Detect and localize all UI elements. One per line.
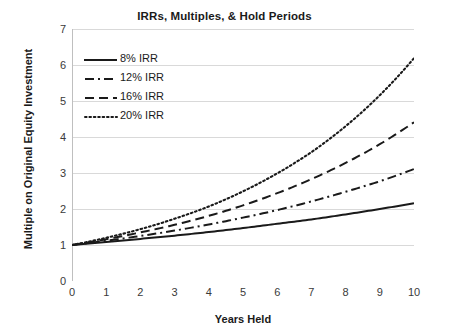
legend-item: 16% IRR — [84, 86, 214, 105]
x-axis-tick-label: 7 — [296, 286, 326, 298]
x-axis-tick-label: 6 — [262, 286, 292, 298]
legend-item: 12% IRR — [84, 67, 214, 86]
x-axis-tick-label: 3 — [160, 286, 190, 298]
y-axis-tick-label: 6 — [40, 59, 66, 71]
x-axis-tick-label: 1 — [91, 286, 121, 298]
x-axis-tick-label: 4 — [194, 286, 224, 298]
legend-line-swatch — [84, 52, 118, 64]
chart-container: IRRs, Multiples, & Hold Periods Multiple… — [0, 0, 449, 336]
legend-line-swatch — [84, 90, 118, 102]
x-axis-tick-label: 5 — [228, 286, 258, 298]
legend-item-label: 16% IRR — [118, 90, 164, 102]
legend-item-label: 12% IRR — [118, 71, 164, 83]
x-axis-tick-label: 9 — [365, 286, 395, 298]
x-axis-tick-label: 8 — [331, 286, 361, 298]
legend-item-label: 8% IRR — [118, 52, 158, 64]
x-axis-tick-label: 0 — [57, 286, 87, 298]
legend-line-swatch — [84, 109, 118, 121]
y-axis-title: Multiple on Original Equity Investment — [22, 14, 34, 284]
x-axis-tick-labels: 012345678910 — [72, 286, 414, 302]
y-axis-tick-label: 5 — [40, 95, 66, 107]
y-axis-tick-label: 2 — [40, 203, 66, 215]
y-axis-tick-label: 3 — [40, 167, 66, 179]
x-axis-tick-label: 10 — [399, 286, 429, 298]
series-line-16-irr — [72, 122, 414, 245]
y-axis-tick-label: 4 — [40, 131, 66, 143]
legend-item: 8% IRR — [84, 48, 214, 67]
legend-item-label: 20% IRR — [118, 109, 164, 121]
x-axis-tick-label: 2 — [125, 286, 155, 298]
chart-legend: 8% IRR12% IRR16% IRR20% IRR — [84, 48, 214, 124]
chart-title: IRRs, Multiples, & Hold Periods — [0, 10, 449, 22]
legend-line-swatch — [84, 71, 118, 83]
y-axis-tick-label: 1 — [40, 239, 66, 251]
y-axis-tick-label: 7 — [40, 23, 66, 35]
x-axis-title: Years Held — [72, 313, 414, 325]
legend-item: 20% IRR — [84, 105, 214, 124]
